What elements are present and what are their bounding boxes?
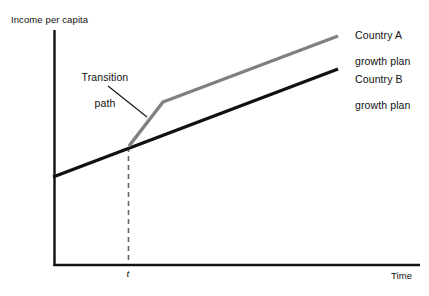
x-axis-label: Time (391, 270, 412, 282)
x-axis-tick-label-t: t (119, 268, 137, 280)
y-axis-label: Income per capita (11, 14, 88, 26)
country-b-series-label: Country B growth plan (343, 60, 410, 125)
chart-figure: Income per capita Time t Transition path… (0, 0, 429, 296)
transition-path-annotation-line2: path (95, 97, 116, 109)
country-a-series-label-line1: Country A (355, 29, 402, 41)
country-b-series-label-line2: growth plan (355, 99, 410, 111)
transition-path-annotation: Transition path (66, 58, 132, 123)
country-a-growth-line (129, 36, 338, 146)
transition-path-annotation-line1: Transition (82, 71, 129, 83)
country-b-series-label-line1: Country B (355, 73, 403, 85)
